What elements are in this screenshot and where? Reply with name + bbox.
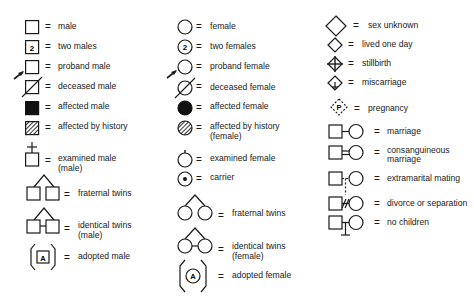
- label-affected-male: affected male: [58, 102, 109, 112]
- hatched-square-icon: [25, 121, 40, 136]
- two-males-square-icon: 2: [25, 40, 40, 55]
- label-consanguineous-2: marriage: [387, 155, 421, 165]
- stillbirth-diamond-cross-icon: [327, 56, 343, 72]
- label-deceased-female: deceased female: [210, 83, 275, 93]
- equals-sign: =: [196, 62, 202, 72]
- proband-male-square-icon: [25, 60, 40, 75]
- proband-female-circle-icon: [177, 59, 193, 75]
- svg-text:2: 2: [30, 44, 35, 53]
- two-females-circle-icon: 2: [177, 39, 193, 55]
- label-proband-female: proband female: [210, 62, 270, 72]
- equals-sign: =: [348, 59, 354, 69]
- examined-male-square-icon: [25, 141, 40, 169]
- examined-female-circle-icon: [177, 149, 193, 169]
- label-marriage: marriage: [387, 127, 421, 137]
- equals-sign: =: [374, 127, 380, 137]
- equals-sign: =: [196, 22, 202, 32]
- equals-sign: =: [374, 174, 380, 184]
- carrier-circle-dot-icon: [177, 171, 193, 187]
- equals-sign: =: [354, 104, 360, 114]
- equals-sign: =: [45, 22, 51, 32]
- equals-sign: =: [196, 155, 202, 165]
- equals-sign: =: [196, 42, 202, 52]
- label-divorce-or-separation: divorce or separation: [387, 199, 467, 209]
- equals-sign: =: [45, 82, 51, 92]
- equals-sign: =: [196, 123, 202, 133]
- equals-sign: =: [218, 272, 224, 282]
- equals-sign: =: [374, 199, 380, 209]
- label-identical-twins-male-2: (male): [78, 231, 102, 241]
- label-proband-male: proband male: [58, 62, 111, 72]
- equals-sign: =: [64, 190, 70, 200]
- male-square-icon: [25, 20, 40, 35]
- label-affected-by-history: affected by history: [58, 122, 128, 132]
- consanguineous-marriage-icon: [328, 145, 370, 161]
- equals-sign: =: [45, 123, 51, 133]
- equals-sign: =: [218, 211, 224, 221]
- label-adopted-male: adopted male: [78, 252, 130, 262]
- label-affected-by-history-female-2: (female): [210, 132, 242, 142]
- label-identical-twins-female-2: (female): [232, 252, 264, 262]
- label-no-children: no children: [387, 218, 429, 228]
- pregnancy-dashed-diamond-icon: P: [330, 98, 348, 116]
- affected-female-filled-circle-icon: [177, 100, 193, 116]
- svg-text:A: A: [40, 254, 46, 263]
- equals-sign: =: [348, 78, 354, 88]
- adopted-female-icon: A: [178, 259, 208, 295]
- no-children-icon: [328, 215, 370, 241]
- equals-sign: =: [45, 156, 51, 166]
- label-carrier: carrier: [210, 173, 234, 183]
- label-adopted-female: adopted female: [232, 271, 291, 281]
- equals-sign: =: [45, 42, 51, 52]
- sex-unknown-diamond-icon: [325, 15, 347, 37]
- fraternal-twins-female-icon: [177, 193, 213, 223]
- equals-sign: =: [196, 103, 202, 113]
- equals-sign: =: [353, 21, 359, 31]
- equals-sign: =: [64, 253, 70, 263]
- label-miscarriage: miscarriage: [362, 78, 406, 88]
- label-pregnancy: pregnancy: [368, 104, 408, 114]
- equals-sign: =: [348, 40, 354, 50]
- marriage-icon: [328, 124, 370, 140]
- identical-twins-female-icon: [177, 226, 213, 256]
- equals-sign: =: [374, 218, 380, 228]
- equals-sign: =: [374, 148, 380, 158]
- affected-male-filled-square-icon: [25, 101, 40, 116]
- adopted-male-icon: A: [29, 243, 57, 273]
- equals-sign: =: [196, 174, 202, 184]
- equals-sign: =: [45, 103, 51, 113]
- label-deceased-male: deceased male: [58, 82, 116, 92]
- extramarital-mating-icon: [328, 171, 370, 197]
- label-extramarital-mating: extramarital mating: [387, 174, 460, 184]
- equals-sign: =: [64, 224, 70, 234]
- deceased-male-square-icon: [25, 80, 40, 95]
- equals-sign: =: [196, 82, 202, 92]
- label-lived-one-day: lived one day: [362, 40, 413, 50]
- svg-text:P: P: [336, 103, 341, 112]
- label-fraternal-twins-male: fraternal twins: [78, 189, 132, 199]
- equals-sign: =: [218, 245, 224, 255]
- svg-text:2: 2: [183, 43, 188, 52]
- miscarriage-diamond-icon: [327, 75, 343, 91]
- label-two-females: two females: [210, 42, 256, 52]
- female-circle-icon: [177, 19, 193, 35]
- lived-one-day-diamond-icon: [327, 37, 343, 53]
- proband-arrow-icon: [13, 70, 25, 80]
- label-female: female: [210, 22, 236, 32]
- label-two-males: two males: [58, 42, 97, 52]
- hatched-circle-icon: [177, 120, 193, 136]
- label-sex-unknown: sex unknown: [368, 21, 418, 31]
- equals-sign: =: [45, 62, 51, 72]
- label-fraternal-twins-female: fraternal twins: [232, 209, 286, 219]
- label-affected-female: affected female: [210, 102, 269, 112]
- fraternal-twins-male-icon: [26, 173, 61, 203]
- deceased-female-circle-icon: [177, 80, 193, 96]
- label-examined-male-2: (male): [58, 164, 82, 174]
- label-examined-female: examined female: [210, 154, 275, 164]
- label-male: male: [58, 22, 77, 32]
- svg-text:A: A: [190, 272, 196, 281]
- divorce-or-separation-icon: [328, 196, 370, 212]
- label-stillbirth: stillbirth: [362, 59, 391, 69]
- identical-twins-male-icon: [26, 206, 61, 236]
